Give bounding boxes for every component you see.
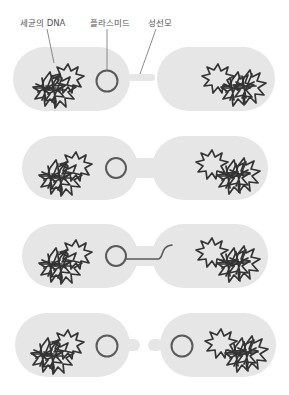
pilus-remnant — [125, 339, 140, 351]
donor-cell — [13, 47, 130, 111]
donor-cell — [22, 224, 138, 288]
donor-cell — [22, 136, 138, 200]
leader-line — [140, 29, 156, 74]
conjugation-diagram: 세균의 DNA 플라스미드 성선모 — [0, 0, 289, 395]
sex-pilus — [128, 74, 155, 81]
stage-4 — [15, 313, 276, 377]
donor-cell — [15, 313, 130, 377]
stage-3 — [22, 224, 268, 288]
label-sex-pilus: 성선모 — [148, 18, 172, 28]
stage-2 — [22, 136, 268, 200]
label-bacterial-dna: 세균의 DNA — [20, 18, 66, 28]
label-plasmid: 플라스미드 — [90, 18, 130, 28]
